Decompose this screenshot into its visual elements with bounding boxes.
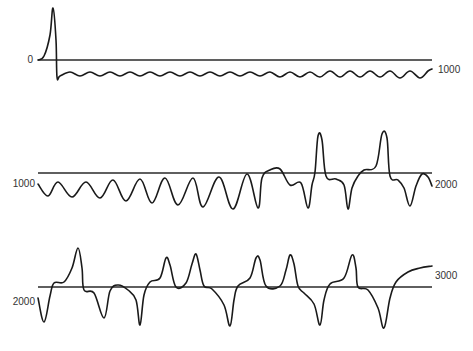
panel-1000-2000: 1000 2000 [13, 131, 458, 209]
panel-2000-3000: 2000 3000 [13, 248, 458, 328]
right-label-3000: 3000 [435, 270, 458, 281]
left-label-0: 0 [27, 54, 33, 65]
trace-0-1000 [38, 8, 432, 80]
left-label-1000: 1000 [13, 178, 36, 189]
right-label-1000: 1000 [438, 64, 461, 75]
waveform-figure: 0 1000 1000 2000 2000 3000 [0, 0, 473, 351]
right-label-2000: 2000 [435, 179, 458, 190]
trace-1000-2000 [38, 131, 432, 209]
left-label-2000: 2000 [13, 296, 36, 307]
panel-0-1000: 0 1000 [27, 8, 460, 80]
trace-2000-3000 [38, 248, 432, 328]
